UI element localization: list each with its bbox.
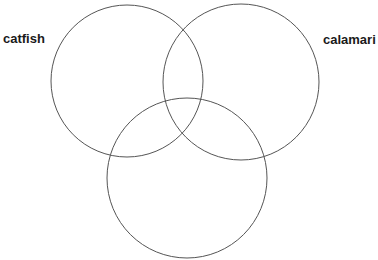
venn-circle-bottom <box>107 98 267 258</box>
set-label-catfish: catfish <box>3 32 45 45</box>
set-label-calamari: calamari <box>323 33 376 46</box>
venn-circle-catfish <box>51 5 203 157</box>
venn-circle-calamari <box>163 4 319 160</box>
venn-diagram <box>0 0 378 260</box>
